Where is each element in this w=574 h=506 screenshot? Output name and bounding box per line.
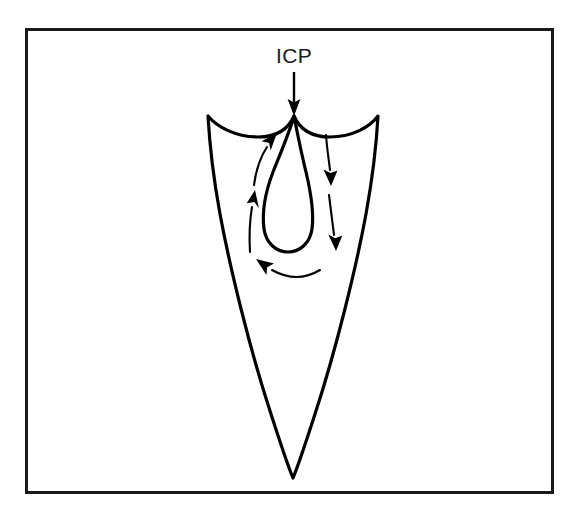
icp-label: ICP xyxy=(276,44,312,67)
icp-diagram-svg: ICP xyxy=(0,0,574,506)
figure-root: ICP xyxy=(0,0,574,506)
